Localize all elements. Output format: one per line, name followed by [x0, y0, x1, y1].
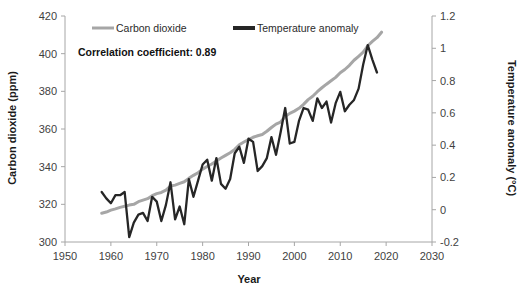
x-tick-label: 1980	[190, 250, 214, 262]
y-tick-label-right: 0.8	[440, 75, 455, 87]
y-tick-label-right: 0.2	[440, 171, 455, 183]
y-axis-title-right: Temperature anomaly (°C)	[506, 60, 518, 197]
series-line-temperature-anomaly	[102, 45, 377, 237]
right-axis: -0.200.20.40.60.811.2	[432, 10, 459, 248]
y-tick-label-left: 340	[39, 161, 57, 173]
x-tick-label: 2000	[282, 250, 306, 262]
series-line-carbon-dioxide	[102, 32, 382, 213]
x-tick-label: 2020	[374, 250, 398, 262]
y-tick-label-left: 360	[39, 123, 57, 135]
y-tick-label-right: 0	[440, 204, 446, 216]
x-tick-label: 2030	[420, 250, 444, 262]
x-axis-title: Year	[237, 273, 261, 285]
x-tick-label: 1960	[99, 250, 123, 262]
x-axis: 195019601970198019902000201020202030	[53, 242, 444, 262]
y-tick-label-right: -0.2	[440, 236, 459, 248]
x-tick-label: 2010	[328, 250, 352, 262]
y-tick-label-left: 300	[39, 236, 57, 248]
legend-label-carbon-dioxide: Carbon dioxide	[116, 22, 187, 34]
y-tick-label-left: 380	[39, 85, 57, 97]
chart-legend: Carbon dioxideTemperature anomaly	[92, 22, 359, 34]
x-tick-label: 1950	[53, 250, 77, 262]
correlation-annotation: Correlation coefficient: 0.89	[78, 46, 216, 58]
y-tick-label-left: 400	[39, 48, 57, 60]
y-tick-label-right: 1.2	[440, 10, 455, 22]
y-tick-label-left: 420	[39, 10, 57, 22]
co2-temperature-line-chart: 300320340360380400420 -0.200.20.40.60.81…	[0, 0, 520, 290]
left-axis: 300320340360380400420	[39, 10, 65, 248]
y-axis-title-left: Carbon dioxide (ppm)	[6, 71, 18, 185]
y-tick-label-left: 320	[39, 198, 57, 210]
y-tick-label-right: 0.6	[440, 107, 455, 119]
legend-label-temperature-anomaly: Temperature anomaly	[257, 22, 359, 34]
chart-container: 300320340360380400420 -0.200.20.40.60.81…	[0, 0, 520, 290]
y-tick-label-right: 1	[440, 42, 446, 54]
y-tick-label-right: 0.4	[440, 139, 455, 151]
x-tick-label: 1990	[236, 250, 260, 262]
x-tick-label: 1970	[145, 250, 169, 262]
